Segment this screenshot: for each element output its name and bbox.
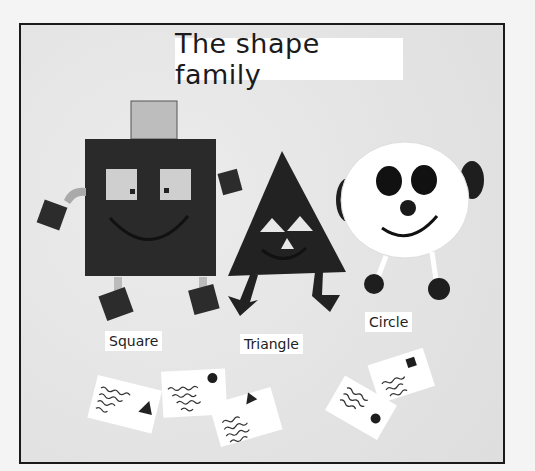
- label-square: Square: [105, 331, 162, 351]
- triangle-left-leg: [228, 275, 258, 316]
- square-right-foot: [188, 284, 220, 315]
- circle-body: [341, 142, 469, 258]
- square-left-arm: [64, 188, 86, 204]
- circle-right-eye: [411, 165, 437, 195]
- square-body: [85, 139, 216, 276]
- circle-left-eye: [376, 166, 402, 196]
- square-left-hand: [37, 200, 68, 231]
- shape-family-artwork: [0, 0, 535, 471]
- square-left-foot: [98, 287, 133, 321]
- circle-right-foot: [428, 278, 450, 300]
- circle-nose: [400, 200, 416, 216]
- circle-left-foot: [364, 274, 384, 294]
- triangle-character: [228, 151, 346, 316]
- triangle-right-leg: [312, 272, 340, 312]
- square-left-eye: [106, 169, 137, 200]
- label-triangle: Triangle: [240, 334, 303, 354]
- square-hat: [131, 101, 177, 139]
- square-right-hand: [217, 169, 242, 195]
- letter-1: [87, 375, 162, 434]
- letter-5: [367, 348, 435, 404]
- square-character: [37, 101, 243, 321]
- circle-character: [336, 142, 484, 300]
- label-circle: Circle: [365, 312, 412, 332]
- square-right-eye: [160, 169, 191, 200]
